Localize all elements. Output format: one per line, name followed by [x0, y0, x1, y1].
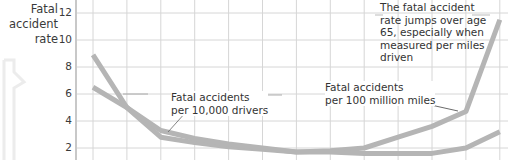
annotation-drivers: Fatal accidents per 10,000 drivers	[171, 91, 268, 116]
annotation-line: Fatal accidents	[171, 91, 268, 104]
annotation-line: per 100 million miles	[325, 94, 435, 107]
annotation-note: The fatal accident rate jumps over age 6…	[380, 1, 486, 64]
annotation-line: rate jumps over age	[380, 14, 486, 27]
decorative-arrow-icon	[4, 60, 24, 160]
annotation-line: per 10,000 drivers	[171, 104, 268, 117]
annotation-line: Fatal accidents	[325, 81, 435, 94]
annotation-line: driven	[380, 51, 486, 64]
annotation-line: measured per miles	[380, 39, 486, 52]
annotation-line: 65, especially when	[380, 26, 486, 39]
annotation-line: The fatal accident	[380, 1, 486, 14]
annotation-miles: Fatal accidents per 100 million miles	[325, 81, 435, 106]
